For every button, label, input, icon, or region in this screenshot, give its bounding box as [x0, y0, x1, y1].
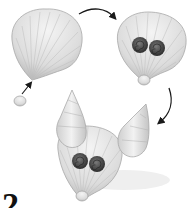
- scallop-shell-stage-1: [12, 9, 82, 80]
- whelk-shell-ear-left: [57, 90, 87, 148]
- small-shell-nose: [76, 191, 88, 201]
- snail-shell-eye-right: [149, 40, 165, 56]
- arrow-icon-attach: [22, 84, 30, 94]
- step-number: 2: [2, 188, 19, 208]
- snail-shell-eye-right: [89, 156, 105, 172]
- snail-shell-eye-left: [72, 153, 88, 169]
- snail-shell-eye-left: [132, 37, 148, 53]
- small-shell-nose: [138, 75, 150, 85]
- arrow-icon-step-1-to-2: [79, 9, 114, 17]
- shell-creature-stage-3: [57, 90, 170, 201]
- whelk-shell-ear-right: [118, 104, 149, 157]
- scallop-shell-stage-2: [117, 12, 186, 85]
- arrow-icon-step-2-to-3: [160, 88, 171, 122]
- small-shell: [14, 96, 26, 106]
- diagram-canvas: 2: [0, 0, 196, 208]
